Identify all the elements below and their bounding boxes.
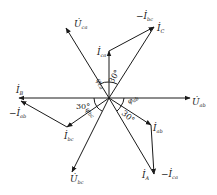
label-neg-i-bc: −İbc <box>136 10 153 22</box>
label-neg-i-ab: −İab <box>9 107 26 119</box>
arc-30-right <box>117 106 121 111</box>
angle-phi-ca: φca <box>94 77 106 90</box>
vector-neg-i-ab <box>21 101 67 127</box>
vector-neg-i-bc <box>109 27 154 51</box>
angle-30-right: 30° <box>120 109 137 125</box>
vector-i-a <box>109 98 154 174</box>
vector-i-c <box>109 27 154 98</box>
label-i-ab: İab <box>152 122 163 134</box>
phasor-diagram: U̇ca İca −İbc İC İB −İab İbc U̇bc U̇ab İ… <box>0 0 217 195</box>
label-u-ab: U̇ab <box>192 96 206 108</box>
label-u-ca: U̇ca <box>74 18 87 30</box>
arc-30-left <box>94 98 97 107</box>
angle-phi-ab: φab <box>126 93 140 105</box>
label-u-bc: U̇bc <box>70 173 84 185</box>
arc-phi-bc <box>97 107 102 111</box>
label-i-c: İC <box>156 22 165 34</box>
label-i-bc: İbc <box>63 130 74 142</box>
label-i-a: İA <box>141 169 150 181</box>
label-i-b: İB <box>15 84 24 96</box>
label-i-ca: İca <box>96 46 106 58</box>
arc-phi-ab <box>121 98 124 106</box>
label-neg-i-ca: −İca <box>161 168 178 180</box>
